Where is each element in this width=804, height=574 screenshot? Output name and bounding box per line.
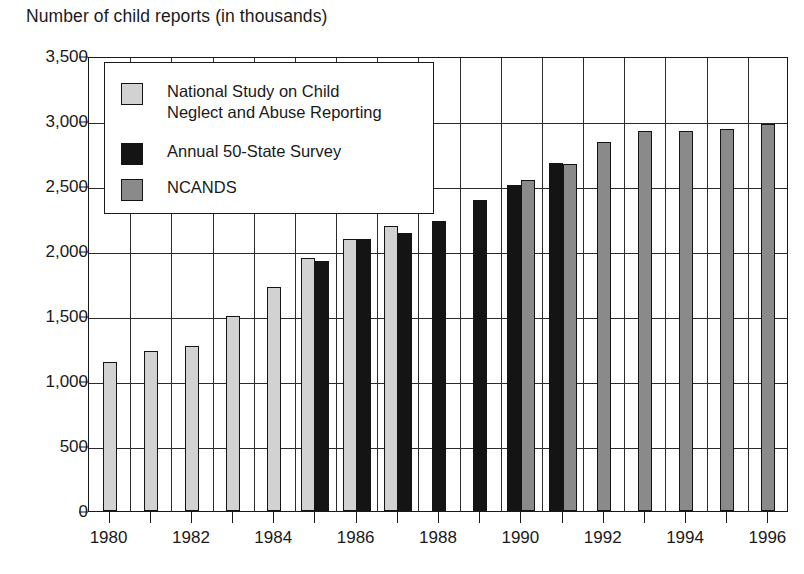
- y-tick-mark: [79, 382, 88, 383]
- x-tick-label: 1990: [501, 528, 539, 548]
- bar-ncands-1992: [597, 142, 611, 511]
- gridline-vertical: [665, 58, 666, 511]
- bar-annual-1988: [432, 221, 446, 511]
- x-tick-label: 1996: [748, 528, 786, 548]
- bar-national-1981: [144, 351, 158, 511]
- gridline-vertical: [460, 58, 461, 511]
- gridline-vertical: [501, 58, 502, 511]
- y-tick-mark: [79, 252, 88, 253]
- legend-swatch-national: [121, 83, 143, 105]
- legend-label-annual: Annual 50-State Survey: [167, 141, 341, 162]
- gridline-vertical: [583, 58, 584, 511]
- legend-label-ncands: NCANDS: [167, 177, 237, 198]
- bar-annual-1989: [473, 200, 487, 511]
- bar-annual-1986: [357, 239, 371, 511]
- gridline-vertical: [707, 58, 708, 511]
- gridline-vertical: [748, 58, 749, 511]
- y-tick-label: 2,500: [10, 177, 88, 197]
- bar-ncands-1993: [638, 131, 652, 511]
- legend-item-ncands: NCANDS: [121, 177, 237, 201]
- x-tick-label: 1984: [254, 528, 292, 548]
- bar-national-1983: [226, 316, 240, 511]
- y-axis: 05001,0001,5002,0002,5003,0003,500: [0, 0, 88, 574]
- x-tick-mark: [273, 512, 274, 523]
- x-tick-mark: [562, 512, 563, 523]
- bar-ncands-1994: [679, 131, 693, 511]
- bar-annual-1991: [549, 163, 563, 511]
- y-tick-mark: [79, 512, 88, 513]
- bar-national-1985: [301, 258, 315, 512]
- y-tick-mark: [79, 317, 88, 318]
- y-tick-label: 3,000: [10, 112, 88, 132]
- bar-ncands-1990: [521, 180, 535, 512]
- y-tick-mark: [79, 122, 88, 123]
- bar-national-1980: [103, 362, 117, 512]
- gridline-vertical: [624, 58, 625, 511]
- x-tick-mark: [314, 512, 315, 523]
- bar-national-1982: [185, 346, 199, 511]
- bar-national-1984: [267, 287, 281, 511]
- x-tick-mark: [603, 512, 604, 523]
- bar-ncands-1996: [761, 124, 775, 511]
- x-tick-mark: [232, 512, 233, 523]
- bar-ncands-1995: [720, 129, 734, 511]
- x-tick-mark: [356, 512, 357, 523]
- legend-swatch-ncands: [121, 179, 143, 201]
- x-tick-mark: [479, 512, 480, 523]
- x-tick-mark: [397, 512, 398, 523]
- x-tick-mark: [150, 512, 151, 523]
- x-tick-label: 1992: [584, 528, 622, 548]
- y-tick-label: 0: [10, 502, 88, 522]
- y-tick-label: 1,000: [10, 372, 88, 392]
- bar-ncands-1991: [563, 164, 577, 511]
- x-tick-mark: [726, 512, 727, 523]
- y-tick-mark: [79, 57, 88, 58]
- bar-annual-1985: [315, 261, 329, 511]
- legend-item-annual: Annual 50-State Survey: [121, 141, 341, 165]
- bar-national-1986: [343, 239, 357, 511]
- y-tick-label: 500: [10, 437, 88, 457]
- x-tick-label: 1982: [172, 528, 210, 548]
- bar-annual-1990: [507, 185, 521, 511]
- x-tick-label: 1986: [337, 528, 375, 548]
- legend-item-national: National Study on Child Neglect and Abus…: [121, 81, 382, 123]
- x-axis: 198019821984198619881990199219941996: [88, 512, 788, 572]
- legend-swatch-annual: [121, 143, 143, 165]
- x-tick-mark: [685, 512, 686, 523]
- bar-chart: Number of child reports (in thousands) 0…: [0, 0, 804, 574]
- y-tick-mark: [79, 447, 88, 448]
- x-tick-mark: [520, 512, 521, 523]
- bar-national-1987: [384, 226, 398, 511]
- y-tick-label: 3,500: [10, 47, 88, 67]
- x-tick-mark: [767, 512, 768, 523]
- x-tick-label: 1980: [90, 528, 128, 548]
- y-tick-label: 1,500: [10, 307, 88, 327]
- x-tick-mark: [644, 512, 645, 523]
- x-tick-mark: [191, 512, 192, 523]
- x-tick-label: 1988: [419, 528, 457, 548]
- chart-legend: National Study on Child Neglect and Abus…: [104, 62, 434, 214]
- x-tick-mark: [109, 512, 110, 523]
- gridline-vertical: [542, 58, 543, 511]
- x-tick-label: 1994: [666, 528, 704, 548]
- x-tick-mark: [438, 512, 439, 523]
- y-tick-mark: [79, 187, 88, 188]
- legend-label-national: National Study on Child Neglect and Abus…: [167, 81, 382, 123]
- bar-annual-1987: [398, 233, 412, 511]
- y-tick-label: 2,000: [10, 242, 88, 262]
